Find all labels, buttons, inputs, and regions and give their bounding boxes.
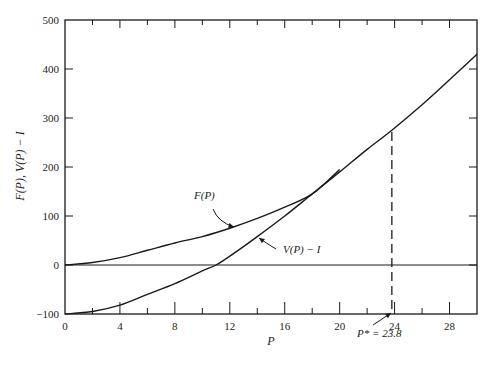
chart-canvas: 0481216202428−1000100200300400500 P F(P)… xyxy=(0,0,492,365)
v-curve-label: V(P) − I xyxy=(283,243,322,256)
p-star-label: P* = 23.8 xyxy=(356,327,402,339)
curves xyxy=(65,54,477,314)
v-curve-arrow xyxy=(259,238,276,249)
v-curve-arrow-head xyxy=(259,238,265,243)
x-tick-label: 16 xyxy=(279,320,291,332)
annotations xyxy=(65,130,477,325)
f-curve-label: F(P) xyxy=(193,189,215,202)
plot-border xyxy=(65,20,477,314)
x-tick-label: 28 xyxy=(444,320,456,332)
x-axis-title: P xyxy=(266,334,275,348)
y-tick-label: 0 xyxy=(54,259,60,271)
y-axis-title: F(P), V(P) − I xyxy=(13,130,27,201)
y-tick-label: 100 xyxy=(43,210,60,222)
v-minus-i-curve xyxy=(65,54,477,314)
y-tick-label: 500 xyxy=(43,14,60,26)
x-tick-label: 8 xyxy=(172,320,178,332)
x-tick-label: 4 xyxy=(117,320,123,332)
f-curve-arrow xyxy=(213,209,234,228)
x-tick-label: 20 xyxy=(334,320,346,332)
axis-ticks xyxy=(65,20,477,314)
x-tick-label: 12 xyxy=(224,320,235,332)
y-tick-label: 300 xyxy=(43,112,60,124)
axis-tick-labels: 0481216202428−1000100200300400500 xyxy=(36,14,455,332)
plot-frame xyxy=(65,20,477,314)
x-tick-label: 0 xyxy=(62,320,68,332)
y-tick-label: −100 xyxy=(36,308,59,320)
y-tick-label: 200 xyxy=(43,161,60,173)
y-tick-label: 400 xyxy=(43,63,60,75)
